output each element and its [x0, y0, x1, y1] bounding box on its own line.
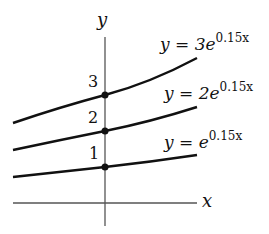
tick-1: 1 [89, 144, 99, 163]
x-axis-label: x [202, 190, 212, 211]
intercept-point-2 [102, 128, 109, 135]
curve-label-2e: y = 2e0.15x [163, 80, 253, 103]
y-axis-label: y [96, 9, 108, 30]
curve-label-3e: y = 3e0.15x [159, 31, 249, 54]
tick-2: 2 [88, 108, 98, 127]
exponential-graph: 3 2 1 y x y = 3e0.15x y = 2e0.15x y = e0… [0, 0, 269, 234]
intercept-point-1 [102, 164, 109, 171]
curve-label-1e: y = e0.15x [163, 129, 242, 152]
intercept-point-3 [102, 92, 109, 99]
tick-3: 3 [88, 72, 98, 91]
